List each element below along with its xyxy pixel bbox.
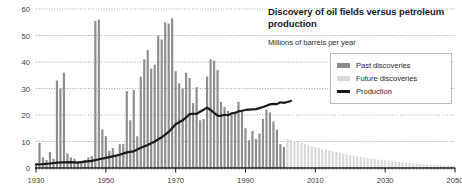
axes-group [35,168,455,173]
bar [175,71,177,168]
bar [157,36,159,169]
bar [360,157,362,168]
bar [206,77,208,168]
bar [129,120,131,168]
bar [87,157,89,168]
bar [63,73,65,168]
bar [402,162,404,168]
chart-title: Discovery of oil fields versus petroleum… [268,6,458,29]
bar [328,151,330,168]
bar [210,59,212,168]
bar [332,151,334,168]
bar [230,115,232,168]
bar [318,148,320,168]
bar [346,154,348,168]
legend-label-past: Past discoveries [356,61,411,70]
bar [189,78,191,168]
bar [216,70,218,168]
bar [269,112,271,168]
x-axis-tick-label: 2050 [447,176,462,185]
y-axis-tick-label: 40 [22,58,30,67]
bar [300,143,302,168]
bar [168,24,170,168]
title-block: Discovery of oil fields versus petroleum… [268,6,458,47]
y-axis-tick-label: 30 [22,85,30,94]
bar [112,148,114,168]
bar [105,136,107,168]
bar [59,89,61,169]
y-axis-tick-label: 10 [22,138,30,147]
bar [272,122,274,168]
chart-figure: 0102030405060 19301950197019902010203020… [0,0,462,190]
bar [286,139,288,168]
bar [374,159,376,168]
legend-swatch-icon-past [337,63,350,68]
bar [335,152,337,168]
bar [94,21,96,168]
future-discoveries-bars [286,139,456,168]
bar [370,158,372,168]
bar [196,87,198,168]
bar [136,136,138,168]
bar [297,142,299,168]
bar [314,147,316,168]
x-axis-tick-label: 2030 [377,176,394,185]
y-axis-tick-label: 20 [22,111,30,120]
bar [234,114,236,168]
bar [255,139,257,168]
bar [311,146,313,168]
bar [108,151,110,168]
bar [227,111,229,168]
bar [283,147,285,168]
y-axis-tick-labels: 0102030405060 [22,5,30,173]
bar [241,111,243,168]
bar [377,160,379,168]
bar [262,119,264,168]
bar [98,20,100,168]
chart-legend: Past discoveries Future discoveries Prod… [330,53,452,104]
bar [147,50,149,168]
bar [182,89,184,169]
bar [185,73,187,168]
bar [290,140,292,168]
bar [140,77,142,168]
bar [150,69,152,168]
bar [251,131,253,168]
legend-item-future-discoveries: Future discoveries [337,72,445,85]
bar [384,160,386,168]
bar [307,145,309,168]
x-axis-tick-label: 2010 [307,176,324,185]
chart-subtitle: Millions of barrels per year [268,29,458,47]
bar [381,160,383,168]
bar [356,156,358,168]
bar [276,130,278,168]
bar [91,156,93,168]
bar [154,65,156,168]
bar [258,134,260,168]
x-axis-tick-label: 1970 [167,176,184,185]
bar [133,90,135,168]
bar [119,144,121,168]
bar [244,128,246,168]
x-axis-tick-label: 1930 [28,176,45,185]
bar [293,141,295,168]
legend-item-past-discoveries: Past discoveries [337,59,445,72]
bar [325,150,327,168]
bar [349,155,351,168]
bar [49,152,51,168]
bar [398,162,400,168]
bar [388,161,390,168]
bar [304,144,306,168]
bar [56,81,58,168]
bar [101,130,103,168]
bar [367,158,369,168]
x-axis-tick-label: 1950 [97,176,114,185]
legend-swatch-icon-future [337,76,350,81]
bar [363,157,365,168]
x-axis-tick-label: 1990 [237,176,254,185]
bar [161,39,163,168]
bar [248,140,250,168]
bar [171,18,173,168]
legend-label-future: Future discoveries [356,74,417,83]
bar [265,110,267,168]
